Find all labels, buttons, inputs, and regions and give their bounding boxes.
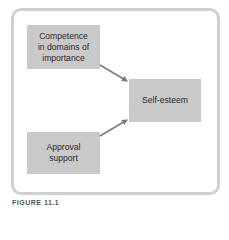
node-approval-line-2: support (47, 153, 81, 164)
node-competence-line-2: in domains of (38, 42, 89, 53)
node-approval-line-1: Approval (47, 142, 81, 153)
node-self-esteem-label: Self-esteem (142, 95, 188, 106)
node-competence-line-3: importance (38, 53, 89, 64)
figure-caption: FIGURE 11.1 (12, 199, 59, 206)
node-approval-support: Approval support (27, 132, 100, 174)
node-competence: Competence in domains of importance (27, 25, 100, 69)
node-competence-line-1: Competence (38, 31, 89, 42)
node-self-esteem: Self-esteem (129, 79, 201, 122)
